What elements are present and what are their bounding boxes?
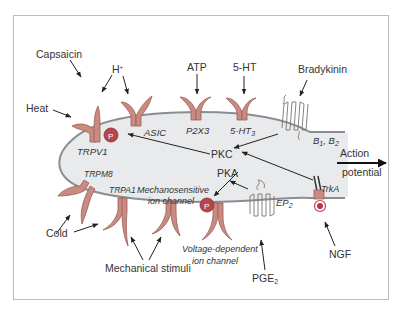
- axon-fill: [338, 133, 348, 197]
- heat-label: Heat: [26, 102, 48, 114]
- voltage-dependent-label-line1: Voltage-dependent: [182, 244, 258, 254]
- trpv1-phospho: P: [104, 128, 118, 142]
- trpa1-label: TRPA1: [109, 185, 136, 195]
- mechanical-mechano-arrow: [149, 237, 161, 260]
- p2x3-label: P2X3: [186, 125, 210, 136]
- mechanosensitive-label-line2: ion channel: [148, 196, 195, 206]
- mechanical-stimuli-label: Mechanical stimuli: [105, 262, 191, 274]
- h-plus-trpv1-arrow: [102, 75, 112, 92]
- mechanosensitive-channel: [152, 201, 180, 236]
- capsaicin-arrow: [70, 60, 81, 77]
- h-plus-asic-arrow: [123, 76, 128, 94]
- mechanosensitive-label-line1: Mechanosensitive: [137, 185, 209, 195]
- action-potential-line1: Action: [340, 147, 369, 159]
- pge2-arrow: [261, 240, 265, 270]
- h-plus-label: H+: [112, 63, 124, 75]
- nociceptor-diagram: P P: [0, 0, 406, 324]
- cold-label: Cold: [46, 227, 68, 239]
- svg-text:P: P: [108, 132, 113, 141]
- trka-label: TrkA: [321, 184, 339, 194]
- pge2-label: PGE2: [252, 272, 278, 285]
- 5ht-label: 5-HT: [233, 61, 257, 73]
- heat-arrow: [53, 110, 71, 117]
- ngf-arrow: [325, 222, 335, 246]
- trpm8-channel: [58, 180, 95, 224]
- action-potential-line2: potential: [342, 166, 382, 178]
- cold-trpa1-arrow: [74, 224, 98, 232]
- voltage-channel-phospho: P: [200, 198, 214, 212]
- bradykinin-arrow: [300, 80, 307, 96]
- asic-label: ASIC: [143, 127, 166, 138]
- voltage-dependent-label-line2: ion channel: [192, 256, 239, 266]
- pkc-label: PKC: [211, 148, 233, 160]
- capsaicin-label: Capsaicin: [36, 48, 82, 60]
- mechanical-trpa1-arrow: [131, 237, 143, 260]
- trpa1-channel: [103, 198, 128, 246]
- atp-label: ATP: [187, 61, 207, 73]
- bradykinin-label: Bradykinin: [298, 63, 347, 75]
- trpv1-label: TRPV1: [77, 146, 108, 157]
- ngf-label: NGF: [329, 248, 351, 260]
- svg-text:P: P: [204, 202, 209, 211]
- trpm8-label: TRPM8: [84, 169, 113, 179]
- pka-label: PKA: [217, 167, 238, 179]
